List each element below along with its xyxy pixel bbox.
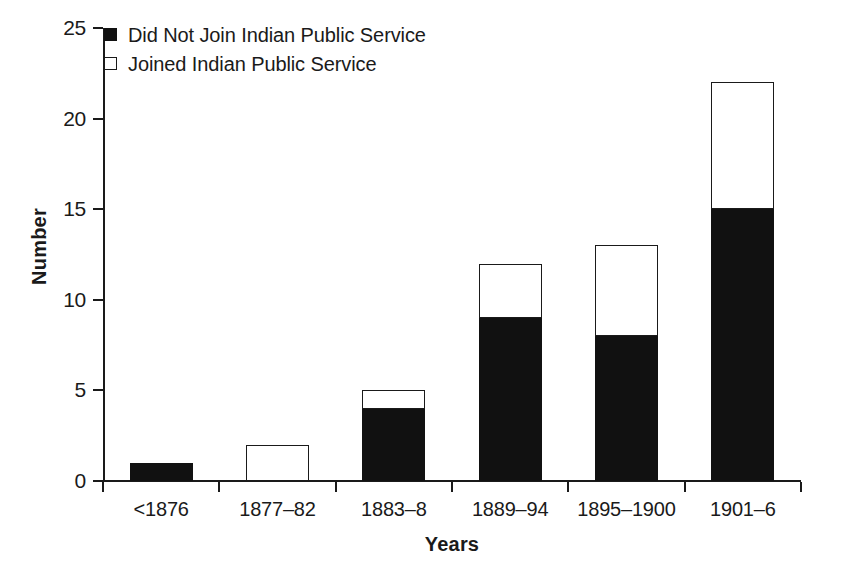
x-axis-title: Years xyxy=(103,533,801,556)
y-axis-tick-label: 5 xyxy=(30,379,86,400)
y-axis-tick xyxy=(93,208,103,210)
bar-stack xyxy=(711,82,774,481)
x-axis-tick xyxy=(102,482,104,492)
x-axis-tick-label: 1901–6 xyxy=(685,497,801,521)
bar-stack xyxy=(595,245,658,481)
stacked-bar-chart: 0510152025 <18761877–821883–81889–941895… xyxy=(0,0,851,574)
x-axis-tick-label: 1877–82 xyxy=(219,497,335,521)
bar-stack xyxy=(130,463,193,481)
y-axis-tick xyxy=(93,27,103,29)
x-axis-tick xyxy=(335,482,337,492)
bar-segment xyxy=(246,445,309,481)
y-axis-tick-label: 20 xyxy=(30,108,86,129)
y-axis-tick-label-wrap: 5 xyxy=(20,379,86,400)
y-axis-title: Number xyxy=(28,187,51,307)
chart-legend: Did Not Join Indian Public Service Joine… xyxy=(104,20,426,78)
bar-segment xyxy=(711,82,774,209)
legend-item-joined: Joined Indian Public Service xyxy=(104,49,426,78)
x-axis-tick-label: 1883–8 xyxy=(336,497,452,521)
x-axis-tick-label: 1895–1900 xyxy=(568,497,684,521)
y-axis-tick xyxy=(93,118,103,120)
x-axis-tick xyxy=(451,482,453,492)
bar-segment xyxy=(595,245,658,336)
legend-item-label: Joined Indian Public Service xyxy=(128,54,376,74)
x-axis-tick-label: <1876 xyxy=(103,497,219,521)
x-axis-tick xyxy=(567,482,569,492)
y-axis-tick-label-wrap: 25 xyxy=(20,17,86,38)
bar-segment xyxy=(595,336,658,481)
bar-stack xyxy=(362,390,425,481)
y-axis-tick-label-wrap: 0 xyxy=(20,470,86,491)
bar-segment xyxy=(130,463,193,481)
y-axis-line xyxy=(103,28,105,482)
filled-square-icon xyxy=(104,28,117,41)
y-axis-tick-label-wrap: 20 xyxy=(20,108,86,129)
x-axis-tick xyxy=(684,482,686,492)
y-axis-tick xyxy=(93,299,103,301)
bar-segment xyxy=(362,390,425,408)
open-square-icon xyxy=(104,57,117,70)
y-axis-tick-label: 25 xyxy=(30,17,86,38)
bar-segment xyxy=(711,209,774,481)
y-axis-tick-label: 0 xyxy=(30,470,86,491)
legend-item-did-not-join: Did Not Join Indian Public Service xyxy=(104,20,426,49)
bar-stack xyxy=(246,445,309,481)
legend-item-label: Did Not Join Indian Public Service xyxy=(128,25,426,45)
x-axis-tick xyxy=(800,482,802,492)
y-axis-tick xyxy=(93,389,103,391)
bar-segment xyxy=(479,318,542,481)
bar-segment xyxy=(362,409,425,481)
bar-segment xyxy=(479,264,542,318)
x-axis-tick xyxy=(218,482,220,492)
bar-stack xyxy=(479,264,542,481)
x-axis-tick-label: 1889–94 xyxy=(452,497,568,521)
